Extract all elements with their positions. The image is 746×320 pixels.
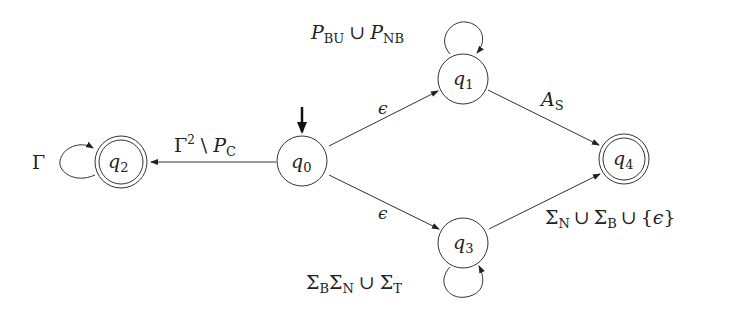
state-q0[interactable]: q0 bbox=[277, 136, 327, 186]
state-q3[interactable]: q3 bbox=[438, 218, 488, 268]
state-q3-sub: 3 bbox=[465, 241, 473, 256]
state-q3-label: q bbox=[453, 231, 465, 253]
label-q3-loop: ΣBΣN∪ΣT bbox=[306, 271, 402, 296]
state-q4-label: q bbox=[613, 147, 625, 169]
loop-q1 bbox=[445, 22, 483, 54]
state-q2-label: q bbox=[108, 150, 120, 172]
automaton-diagram: q0 q1 q2 q3 q4 Γ2\PC ϵ ϵ PBU∪PNB AS bbox=[0, 0, 746, 320]
loop-q2 bbox=[60, 145, 95, 178]
state-q0-label: q bbox=[291, 150, 303, 172]
state-q4-sub: 4 bbox=[625, 157, 633, 172]
state-q1[interactable]: q1 bbox=[438, 54, 488, 104]
label-q0-q2: Γ2\PC bbox=[174, 133, 236, 159]
state-q4[interactable]: q4 bbox=[599, 134, 649, 184]
label-q2-loop: Γ bbox=[32, 151, 45, 173]
state-q1-label: q bbox=[453, 67, 465, 89]
loop-q3 bbox=[444, 266, 483, 297]
state-q0-sub: 0 bbox=[303, 160, 311, 175]
state-q2[interactable]: q2 bbox=[95, 136, 147, 188]
label-q1-q4: AS bbox=[539, 88, 564, 113]
label-q3-q4: ΣN∪ΣB∪{ϵ} bbox=[545, 206, 676, 231]
state-q2-sub: 2 bbox=[120, 160, 128, 175]
label-q0-q3: ϵ bbox=[378, 203, 388, 223]
state-q1-sub: 1 bbox=[465, 77, 473, 92]
label-q0-q1: ϵ bbox=[378, 98, 388, 118]
label-q1-loop: PBU∪PNB bbox=[310, 21, 404, 46]
